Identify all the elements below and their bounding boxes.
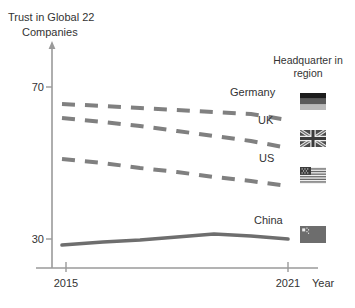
chart-container: Trust in Global 22 Companies 70 30 2015 …	[0, 0, 355, 308]
series-line-germany	[62, 104, 288, 120]
legend-title-line-2: region	[293, 67, 322, 79]
series-label-us: US	[259, 152, 274, 164]
series-label-china: China	[254, 214, 283, 226]
legend-title: Headquarter in region	[264, 54, 352, 80]
us-flag-icon	[300, 167, 326, 184]
china-flag-icon	[300, 226, 326, 243]
y-axis-tick-30: 30	[18, 233, 44, 245]
plot-area	[0, 0, 355, 308]
uk-flag-icon	[300, 130, 326, 147]
germany-flag-icon	[300, 93, 326, 110]
series-line-china	[62, 234, 288, 245]
series-label-germany: Germany	[230, 86, 275, 98]
x-axis-tick-2015: 2015	[44, 277, 88, 289]
x-axis-tick-2021: 2021	[266, 277, 310, 289]
legend-title-line-1: Headquarter in	[273, 54, 342, 66]
x-axis	[36, 262, 318, 272]
series-line-us	[62, 159, 288, 186]
series-line-uk	[62, 118, 288, 148]
y-axis-tick-70: 70	[18, 81, 44, 93]
x-axis-title: Year	[312, 277, 334, 289]
series-label-uk: UK	[258, 114, 273, 126]
y-axis	[46, 41, 55, 268]
